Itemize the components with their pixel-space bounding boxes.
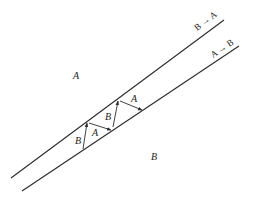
arrow-label-b-2: B bbox=[105, 111, 111, 122]
region-label-b: B bbox=[151, 151, 157, 162]
arrow-b-1 bbox=[83, 123, 87, 149]
arrow-label-a-2: A bbox=[130, 93, 138, 104]
boundary-label-b-to-a: B → A bbox=[192, 9, 219, 33]
boundary-label-a-to-b: A → B bbox=[209, 37, 236, 60]
arrow-label-b-1: B bbox=[75, 135, 81, 146]
arrow-b-2 bbox=[113, 101, 118, 127]
boundary-line-a-to-b bbox=[22, 46, 239, 191]
phase-transition-diagram: A B B → A A → B B A B A bbox=[0, 0, 254, 201]
boundary-line-b-to-a bbox=[11, 20, 224, 178]
region-label-a: A bbox=[72, 70, 80, 81]
arrow-label-a-1: A bbox=[91, 127, 99, 138]
